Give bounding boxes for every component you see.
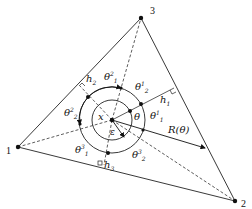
diagram-graphics: [0, 0, 252, 209]
theta-2-3-label: θ32: [132, 150, 146, 160]
center-x-label: x: [98, 112, 104, 122]
h1-label: h1: [160, 95, 170, 105]
epsilon-label: ε: [110, 128, 115, 137]
theta-1-3-label: θ31: [75, 145, 89, 155]
theta-2-1-label: θ12: [135, 82, 149, 92]
theta-2-2-label: θ22: [64, 108, 78, 118]
vertex-2-label: 2: [241, 199, 246, 209]
r-theta-label: R(θ): [168, 125, 189, 135]
h3-label: h3: [104, 160, 114, 170]
points: [16, 16, 237, 203]
theta-label: θ: [134, 112, 140, 122]
vertex-1-label: 1: [6, 146, 11, 156]
vertex-3-label: 3: [150, 6, 155, 16]
triangle-diagram: 1 2 3 x ε θ R(θ) h1 h2 h3 θ11 θ12 θ21 θ2…: [0, 0, 252, 209]
theta-1-1-label: θ11: [150, 111, 164, 121]
theta-1-2-label: θ21: [104, 72, 118, 82]
triangle-edges: [18, 18, 235, 201]
h2-label: h2: [86, 74, 96, 84]
